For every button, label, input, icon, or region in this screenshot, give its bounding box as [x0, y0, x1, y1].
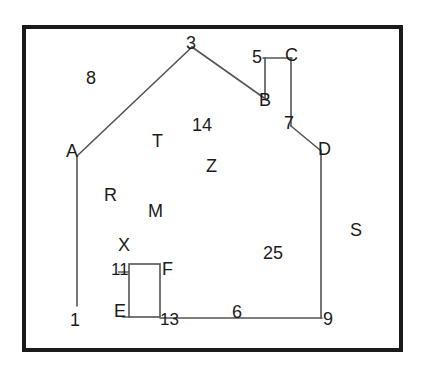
- label-8: 8: [86, 69, 96, 87]
- label-5: 5: [252, 48, 262, 66]
- door-rectangle: [129, 264, 160, 317]
- label-13: 13: [160, 311, 179, 328]
- label-11: 11: [111, 261, 129, 278]
- label-R: R: [104, 186, 117, 204]
- label-D: D: [318, 140, 331, 158]
- label-1: 1: [70, 311, 80, 329]
- label-9: 9: [323, 310, 333, 328]
- right-eave-line: [291, 126, 320, 150]
- house-diagram: [0, 0, 427, 373]
- label-X: X: [118, 236, 130, 254]
- outer-frame: [24, 27, 401, 350]
- label-C: C: [285, 46, 298, 64]
- left-roof-line: [77, 47, 192, 156]
- label-Z: Z: [206, 157, 217, 175]
- label-7: 7: [284, 114, 294, 132]
- label-A: A: [66, 142, 78, 160]
- label-T: T: [152, 132, 163, 150]
- label-M: M: [148, 202, 163, 220]
- label-F: F: [162, 260, 173, 278]
- label-3: 3: [186, 34, 196, 52]
- label-6: 6: [232, 303, 242, 321]
- label-14: 14: [192, 116, 212, 134]
- label-25: 25: [263, 244, 283, 262]
- diagram-canvas: 835CB7D14TAZRMSX2511FE13691: [0, 0, 427, 373]
- label-B: B: [259, 91, 271, 109]
- label-S: S: [350, 221, 362, 239]
- label-E: E: [114, 302, 126, 320]
